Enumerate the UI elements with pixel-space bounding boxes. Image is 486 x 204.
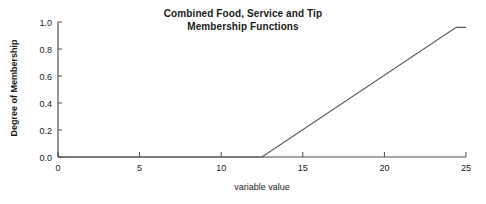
- x-axis-ticks: [58, 152, 466, 157]
- data-series-line: [58, 27, 466, 157]
- y-tick-label: 0.6: [39, 72, 52, 82]
- y-tick-label: 0.8: [39, 45, 52, 55]
- x-tick-label: 15: [298, 163, 308, 173]
- chart-figure: Combined Food, Service and Tip Membershi…: [0, 0, 486, 204]
- x-tick-label: 25: [461, 163, 471, 173]
- x-tick-labels: 0 5 10 15 20 25: [55, 163, 471, 173]
- x-tick-label: 0: [55, 163, 60, 173]
- y-tick-label: 0.2: [39, 126, 52, 136]
- x-tick-label: 20: [379, 163, 389, 173]
- y-tick-labels: 0.0 0.2 0.4 0.6 0.8 1.0: [39, 18, 52, 163]
- x-tick-label: 10: [216, 163, 226, 173]
- y-tick-label: 0.0: [39, 153, 52, 163]
- plot-area: 0.0 0.2 0.4 0.6 0.8 1.0 0 5 10 15 20 25: [0, 0, 486, 204]
- x-tick-label: 5: [137, 163, 142, 173]
- y-tick-label: 0.4: [39, 99, 52, 109]
- y-tick-label: 1.0: [39, 18, 52, 28]
- x-axis-label: variable value: [58, 182, 466, 192]
